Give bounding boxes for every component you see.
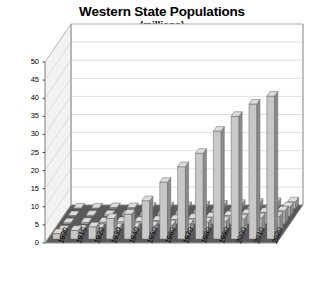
y-axis-tick-label: 35 — [21, 112, 39, 120]
y-axis-tick-label: 15 — [21, 185, 39, 193]
y-axis-tick-label: 5 — [21, 221, 39, 229]
y-axis-tick-label: 45 — [21, 76, 39, 84]
y-axis-tick-label: 30 — [21, 130, 39, 138]
y-axis-tick-label: 25 — [21, 149, 39, 157]
y-axis-tick-label: 0 — [21, 239, 39, 247]
y-axis-tick-label: 50 — [21, 58, 39, 66]
chart-container: Western State Populations (millions) 051… — [0, 0, 324, 307]
y-axis-tick-label: 10 — [21, 203, 39, 211]
chart-plot-area — [0, 0, 324, 307]
y-axis-tick-label: 40 — [21, 94, 39, 102]
y-axis-tick-label: 20 — [21, 167, 39, 175]
